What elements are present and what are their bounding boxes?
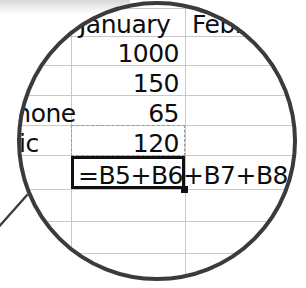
column-header-january[interactable]: January — [79, 12, 170, 37]
row-label-telephone[interactable]: phone — [17, 101, 76, 126]
cell-b6-value[interactable]: 150 — [71, 71, 179, 96]
cell-b7-value[interactable]: 65 — [71, 101, 179, 126]
column-header-february[interactable]: Februar — [192, 12, 284, 37]
row-label-electric[interactable]: tric — [17, 131, 39, 156]
magnifier-screenshot: January Februar phone tric 1000 150 65 1… — [0, 0, 306, 288]
formula-text[interactable]: =B5+B6+B7+B8 — [78, 163, 288, 188]
gridline-horizontal — [17, 221, 297, 222]
magnifier-lens: January Februar phone tric 1000 150 65 1… — [17, 1, 297, 281]
copy-marquee — [71, 125, 185, 156]
spreadsheet-grid: January Februar phone tric 1000 150 65 1… — [17, 1, 297, 281]
gridline-vertical — [185, 1, 186, 281]
gridline-horizontal — [17, 8, 297, 9]
cell-b5-value[interactable]: 1000 — [71, 41, 179, 66]
gridline-horizontal — [17, 253, 297, 254]
fill-handle[interactable] — [181, 186, 188, 193]
